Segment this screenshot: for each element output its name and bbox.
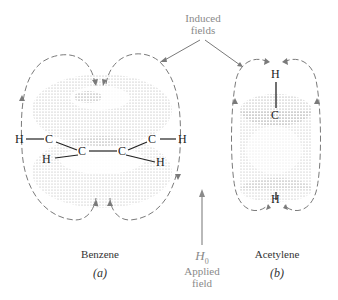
panel-b-tag: (b) [262,266,292,281]
induced-fields-label: Induced fields [178,12,228,36]
acetylene-c: C [271,109,279,121]
applied-label-line1: Applied [178,265,226,277]
panel-a-tag: (a) [85,266,115,281]
benzene-h-left: H [15,133,24,145]
induced-label-line2: fields [178,24,228,36]
benzene-c-right: C [148,133,156,145]
applied-field-arrowhead [199,189,205,197]
acetylene-h-top: H [271,68,280,80]
benzene-h-low-right: H [156,156,165,168]
benzene-c-low-left: C [78,145,86,157]
benzene-c-left: C [45,133,53,145]
applied-field-symbol: H0 [182,248,222,266]
acetylene-label: Acetylene [245,248,309,260]
benzene-h-right: H [178,133,187,145]
h0-symbol: H [195,248,204,263]
benzene-h-low-left: H [42,153,51,165]
induced-arrow-right [237,62,243,67]
benzene-c-low-right: C [118,145,126,157]
induced-pointer-lines [163,40,240,65]
applied-label-line2: field [178,277,226,289]
benzene-lower-torus [32,136,172,208]
benzene-label: Benzene [70,248,130,260]
acetylene-h-bottom: H [271,193,280,205]
induced-arrow-left [160,57,167,62]
applied-field-label: Applied field [178,265,226,289]
induced-label-line1: Induced [178,12,228,24]
